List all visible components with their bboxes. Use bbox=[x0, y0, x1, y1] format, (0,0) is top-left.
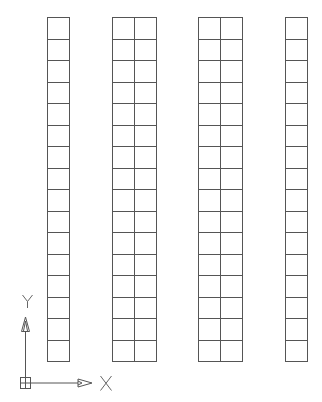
column-2 bbox=[113, 18, 157, 362]
ucs-y-label bbox=[23, 295, 33, 308]
drawing-canvas: X Y bbox=[0, 0, 322, 402]
grid-columns bbox=[48, 18, 308, 362]
ucs-x-arrow-icon bbox=[78, 379, 92, 387]
column-4 bbox=[286, 18, 308, 362]
ucs-icon bbox=[21, 317, 93, 389]
ucs-y-arrow-icon bbox=[22, 317, 30, 332]
ucs-x-label bbox=[101, 376, 112, 391]
column-1 bbox=[48, 18, 70, 362]
column-3 bbox=[199, 18, 243, 362]
